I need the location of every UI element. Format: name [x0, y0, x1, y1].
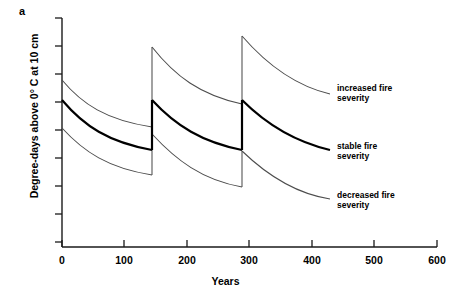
x-tick-400: 400 — [295, 254, 329, 266]
series-decreased-fire-severity — [62, 128, 330, 199]
annotation-increased-fire-severity: increased fire severity — [337, 83, 392, 104]
x-tick-0: 0 — [45, 254, 79, 266]
annotation-stable-fire-severity: stable fire severity — [337, 141, 377, 162]
x-tick-200: 200 — [170, 254, 204, 266]
x-axis-ticks — [62, 240, 437, 247]
x-tick-300: 300 — [232, 254, 266, 266]
x-tick-100: 100 — [107, 254, 141, 266]
y-axis-ticks — [55, 18, 62, 242]
x-tick-600: 600 — [420, 254, 451, 266]
series-stable-fire-severity — [62, 100, 330, 150]
series-increased-fire-severity — [62, 36, 330, 127]
figure-panel-a: a Degree-days above 0° C at 10 cm Years — [0, 0, 451, 302]
annotation-decreased-fire-severity: decreased fire severity — [337, 190, 395, 211]
x-tick-500: 500 — [357, 254, 391, 266]
